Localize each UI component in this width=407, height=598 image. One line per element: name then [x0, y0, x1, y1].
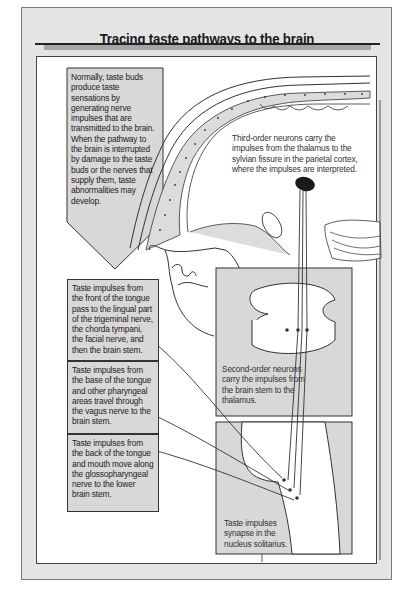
anatomy-illustration: [0, 0, 407, 598]
synapse-text: Taste impulses synapse in the nucleus so…: [224, 518, 287, 549]
parietal-cortex-spot: [294, 175, 317, 194]
third-order-label: Third-order neurons carry the impulses f…: [232, 133, 362, 174]
callout-base-tongue-text: Taste impulses from the base of the tong…: [72, 365, 151, 426]
intro-callout: Normally, taste buds produce taste sensa…: [67, 69, 163, 209]
cerebellum: [325, 220, 381, 261]
callout-base-tongue: Taste impulses from the base of the tong…: [67, 361, 159, 434]
second-order-label: Second-order neurons carry the impulses …: [222, 364, 310, 405]
third-order-text: Third-order neurons carry the impulses f…: [232, 133, 358, 174]
jaw-line: [172, 285, 214, 336]
nose-mouth: [165, 250, 208, 287]
second-order-text: Second-order neurons carry the impulses …: [222, 364, 305, 405]
callout-back-tongue: Taste impulses from the back of the tong…: [67, 434, 159, 512]
callout-front-tongue: Taste impulses from the front of the ton…: [67, 279, 159, 361]
callout-front-tongue-text: Taste impulses from the front of the ton…: [72, 283, 153, 355]
callout-back-tongue-text: Taste impulses from the back of the tong…: [72, 438, 153, 499]
intro-text: Normally, taste buds produce taste sensa…: [71, 72, 154, 206]
synapse-label: Taste impulses synapse in the nucleus so…: [224, 518, 294, 549]
